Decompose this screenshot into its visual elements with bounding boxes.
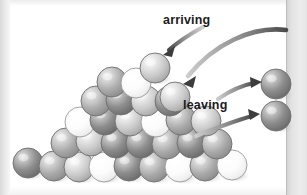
sphere-arriving <box>140 53 170 83</box>
sphere-pile <box>13 148 43 178</box>
sphere-highlight <box>144 158 154 166</box>
sphere-highlight <box>165 88 175 96</box>
figure-container: arriving leaving <box>0 0 307 195</box>
label-arriving: arriving <box>163 13 210 27</box>
sphere-highlight <box>119 157 129 165</box>
sphere-highlight <box>69 158 79 166</box>
sphere-highlight <box>18 154 28 162</box>
sphere-cluster <box>0 0 307 195</box>
sphere-highlight <box>86 92 96 100</box>
sphere-highlight <box>56 134 66 142</box>
sphere-highlight <box>70 113 80 121</box>
sphere-highlight <box>126 74 136 82</box>
sphere-highlight <box>44 157 54 165</box>
sphere-highlight <box>196 112 206 120</box>
sphere-highlight <box>266 75 276 83</box>
sphere-highlight <box>195 157 205 165</box>
sphere-leaving <box>261 69 291 99</box>
sphere-highlight <box>170 158 180 166</box>
label-leaving: leaving <box>183 98 227 112</box>
sphere-highlight <box>266 107 276 115</box>
sphere-highlight <box>102 73 112 81</box>
sphere-leaving <box>261 101 291 131</box>
sphere-highlight <box>145 59 155 67</box>
sphere-highlight <box>94 158 104 166</box>
